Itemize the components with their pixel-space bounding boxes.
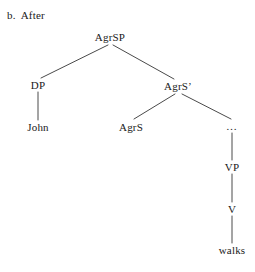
tree-edge-agrsbar-dots	[182, 94, 231, 119]
tree-edge-agrsp-dp	[41, 45, 108, 78]
tree-node-agrsbar: AgrS’	[164, 81, 192, 92]
tree-node-walks: walks	[219, 245, 246, 256]
tree-edge-agrsbar-agrs	[134, 94, 175, 119]
tree-node-v: V	[228, 204, 236, 215]
tree-node-dp: DP	[31, 80, 45, 91]
tree-edges	[0, 0, 255, 272]
tree-node-agrsp: AgrSP	[95, 32, 125, 43]
tree-node-john: John	[27, 122, 49, 133]
syntax-tree-figure: b.After AgrSPDPJohnAgrS’AgrS…VPVwalks	[0, 0, 255, 272]
tree-node-dots: …	[226, 121, 238, 132]
tree-edge-agrsp-agrsbar	[113, 45, 174, 79]
tree-node-vp: VP	[225, 162, 239, 173]
tree-node-agrs: AgrS	[119, 122, 143, 133]
